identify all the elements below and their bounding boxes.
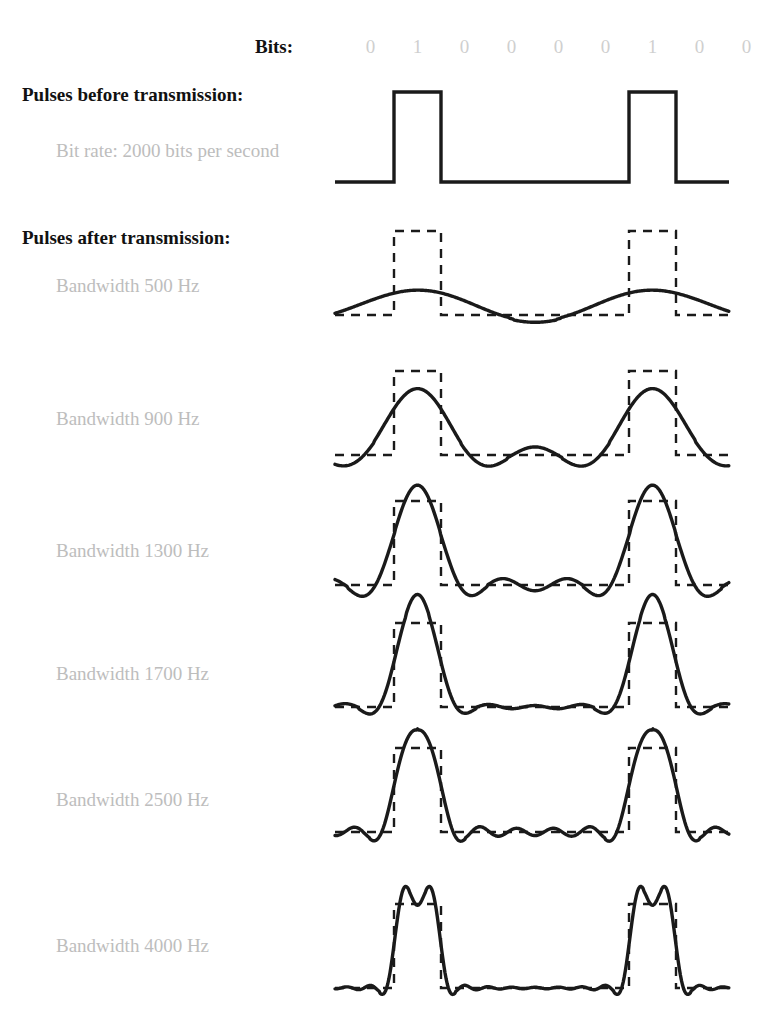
bit-digit: 0 bbox=[361, 36, 381, 58]
bit-digit: 0 bbox=[690, 36, 710, 58]
bit-digit: 0 bbox=[549, 36, 569, 58]
label-bandwidth-1300: Bandwidth 1300 Hz bbox=[56, 540, 209, 562]
bit-digit: 0 bbox=[737, 36, 757, 58]
bit-digit: 1 bbox=[643, 36, 663, 58]
bit-digit: 0 bbox=[596, 36, 616, 58]
bit-digit: 1 bbox=[408, 36, 428, 58]
reference-pulse-dashed bbox=[335, 371, 729, 455]
pulse-transmission-figure: Bits: 010000100 Pulses before transmissi… bbox=[0, 0, 757, 1033]
bit-digit: 0 bbox=[502, 36, 522, 58]
label-bandwidth-2500: Bandwidth 2500 Hz bbox=[56, 789, 209, 811]
reference-pulse-dashed bbox=[335, 231, 729, 315]
label-bandwidth-900: Bandwidth 900 Hz bbox=[56, 408, 200, 430]
label-bit-rate: Bit rate: 2000 bits per second bbox=[56, 140, 279, 162]
heading-pulses-after: Pulses after transmission: bbox=[22, 227, 231, 249]
square-wave-before-transmission bbox=[335, 92, 729, 182]
bits-row-title: Bits: bbox=[255, 36, 293, 58]
heading-pulses-before: Pulses before transmission: bbox=[22, 84, 243, 106]
label-bandwidth-500: Bandwidth 500 Hz bbox=[56, 275, 200, 297]
bit-digit: 0 bbox=[455, 36, 475, 58]
label-bandwidth-4000: Bandwidth 4000 Hz bbox=[56, 935, 209, 957]
label-bandwidth-1700: Bandwidth 1700 Hz bbox=[56, 663, 209, 685]
